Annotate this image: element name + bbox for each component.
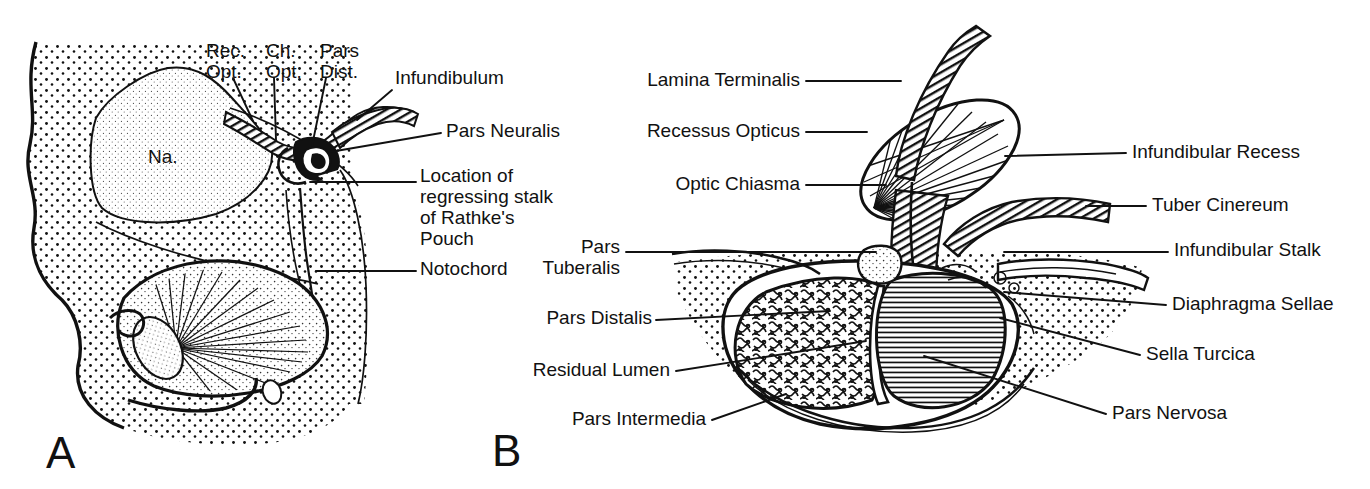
label-rec-opt: Rec.Opt. (206, 40, 245, 82)
na-label: Na. (148, 146, 178, 167)
label-pars-neuralis: Pars Neuralis (446, 120, 560, 141)
label-lamina-terminalis: Lamina Terminalis (647, 69, 800, 90)
label-pars-distalis: Pars Distalis (546, 307, 652, 328)
label-line: Rec. (206, 40, 245, 61)
label-pars-nervosa: Pars Nervosa (1112, 402, 1228, 423)
label-line: Notochord (420, 258, 508, 279)
label-residual-lumen: Residual Lumen (533, 359, 670, 380)
label-line: Infundibulum (395, 67, 504, 88)
panel-letter-a: A (46, 428, 76, 477)
label-line: Infundibular Recess (1132, 141, 1300, 162)
label-recessus-opticus: Recessus Opticus (647, 120, 800, 141)
label-line: Dist. (320, 61, 358, 82)
label-tuber-cinereum: Tuber Cinereum (1152, 194, 1289, 215)
label-line: Location of (420, 165, 514, 186)
label-line: of Rathke's (420, 207, 514, 228)
label-line: Pars Intermedia (572, 408, 707, 429)
figure-canvas: Rec.Opt.Ch.Opt.ParsDist.InfundibulumPars… (0, 0, 1370, 489)
panel-b-pars-nervosa (876, 273, 1005, 407)
label-line: Optic Chiasma (675, 173, 800, 194)
label-infundibulum: Infundibulum (395, 67, 504, 88)
label-optic-chiasma: Optic Chiasma (675, 173, 800, 194)
label-line: Tuber Cinereum (1152, 194, 1289, 215)
label-infundibular-recess: Infundibular Recess (1132, 141, 1300, 162)
label-line: Residual Lumen (533, 359, 670, 380)
label-sella-turcica: Sella Turcica (1146, 343, 1255, 364)
label-line: Tuberalis (543, 257, 620, 278)
label-line: Infundibular Stalk (1174, 239, 1321, 260)
label-line: Lamina Terminalis (647, 69, 800, 90)
label-line: Sella Turcica (1146, 343, 1255, 364)
label-infundibular-stalk: Infundibular Stalk (1174, 239, 1321, 260)
label-pars-dist: ParsDist. (320, 40, 359, 82)
label-line: Pars (581, 236, 620, 257)
panel-letter-b: B (492, 426, 521, 475)
label-line: Pars Neuralis (446, 120, 560, 141)
label-notochord: Notochord (420, 258, 508, 279)
label-line: Pars Nervosa (1112, 402, 1228, 423)
label-line: Pars (320, 40, 359, 61)
label-line: Opt. (266, 61, 302, 82)
internal-labels-layer: Na. (148, 146, 178, 167)
anatomy-figure: Rec.Opt.Ch.Opt.ParsDist.InfundibulumPars… (0, 0, 1370, 489)
label-line: Recessus Opticus (647, 120, 800, 141)
label-line: Opt. (206, 61, 242, 82)
label-diaphragma-sellae: Diaphragma Sellae (1172, 293, 1334, 314)
label-line: Pars Distalis (546, 307, 652, 328)
label-line: Ch. (266, 40, 296, 61)
label-line: Diaphragma Sellae (1172, 293, 1334, 314)
label-pars-intermedia: Pars Intermedia (572, 408, 707, 429)
label-line: regressing stalk (420, 186, 554, 207)
label-line: Pouch (420, 228, 474, 249)
